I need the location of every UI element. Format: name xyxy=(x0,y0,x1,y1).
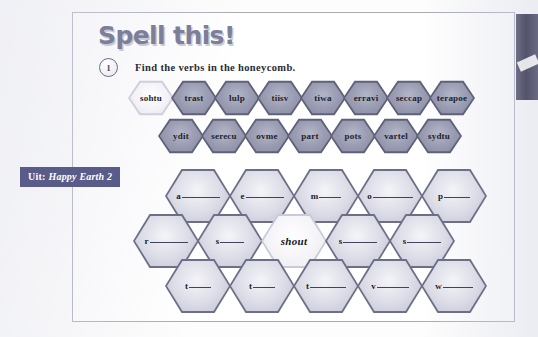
scrambled-word-label: trast xyxy=(185,93,204,103)
answer-initial-letter: s xyxy=(403,236,407,246)
source-label: Uit:Happy Earth 2 xyxy=(20,167,120,187)
answer-content: shout xyxy=(263,235,325,247)
scrambled-word-label: ydit xyxy=(173,131,189,141)
hex-face: v xyxy=(359,260,421,312)
answer-initial-letter: s xyxy=(216,236,220,246)
source-label-title: Happy Earth 2 xyxy=(48,171,112,182)
answer-initial-letter: m xyxy=(311,191,319,201)
answer-blank-line[interactable] xyxy=(444,197,470,198)
answer-blank-line[interactable] xyxy=(407,242,441,243)
scrambled-word-label: seccap xyxy=(396,93,422,103)
scrambled-word-label: ovme xyxy=(256,131,277,141)
answer-initial-letter: e xyxy=(241,191,245,201)
scrambled-word-label: lulp xyxy=(229,93,245,103)
answer-content: a xyxy=(167,191,229,201)
source-label-prefix: Uit: xyxy=(28,171,45,182)
answer-content: p xyxy=(423,191,485,201)
hex-face: trast xyxy=(173,82,215,114)
answer-initial-letter: o xyxy=(367,191,372,201)
scrambled-word-label: sohtu xyxy=(140,93,162,103)
hex-face: sohtu xyxy=(130,82,172,114)
answer-blank-line[interactable] xyxy=(220,242,244,243)
scrambled-word-label: vartel xyxy=(384,131,408,141)
answer-blank-line[interactable] xyxy=(182,197,220,198)
answer-content: s xyxy=(327,236,389,246)
answer-content: v xyxy=(359,281,421,291)
hex-face: terapoe xyxy=(431,82,473,114)
answer-initial-letter: s xyxy=(339,236,343,246)
scrambled-word-label: erravi xyxy=(354,93,379,103)
scrambled-word-label: pots xyxy=(345,131,362,141)
task-number-badge: 1 xyxy=(99,58,118,77)
answer-content: w xyxy=(423,281,485,291)
hex-face: erravi xyxy=(345,82,387,114)
instruction-row: 1 Find the verbs in the honeycomb. xyxy=(99,58,296,77)
hex-face: seccap xyxy=(388,82,430,114)
hex-face: tiisv xyxy=(259,82,301,114)
answer-blank-line[interactable] xyxy=(373,197,413,198)
answer-blank-line[interactable] xyxy=(246,197,284,198)
scrambled-word-label: part xyxy=(301,131,318,141)
hex-face: part xyxy=(289,120,331,152)
answer-content: o xyxy=(359,191,421,201)
answer-blank-line[interactable] xyxy=(319,197,341,198)
answer-blank-line[interactable] xyxy=(377,287,409,288)
answer-blank-line[interactable] xyxy=(253,287,275,288)
hex-face: t xyxy=(295,260,357,312)
scrambled-word-label: tiisv xyxy=(271,93,288,103)
page-title: Spell this! xyxy=(98,21,235,50)
answer-initial-letter: r xyxy=(145,236,149,246)
hex-face: pots xyxy=(332,120,374,152)
answer-blank-line[interactable] xyxy=(310,287,346,288)
scrambled-word-label: sydtu xyxy=(428,131,450,141)
answer-content: s xyxy=(391,236,453,246)
instruction-text: Find the verbs in the honeycomb. xyxy=(135,62,296,73)
answer-content: r xyxy=(135,236,197,246)
hex-face: t xyxy=(231,260,293,312)
hex-face: tiwa xyxy=(302,82,344,114)
answer-initial-letter: p xyxy=(438,191,443,201)
answer-blank-line[interactable] xyxy=(150,242,188,243)
answer-content: t xyxy=(295,281,357,291)
hex-face: sydtu xyxy=(418,120,460,152)
hex-face: ydit xyxy=(160,120,202,152)
scrambled-word-label: terapoe xyxy=(437,93,467,103)
answer-blank-line[interactable] xyxy=(343,242,377,243)
answer-content: t xyxy=(167,281,229,291)
answer-content: e xyxy=(231,191,293,201)
answer-initial-letter: t xyxy=(249,281,252,291)
answer-content: m xyxy=(295,191,357,201)
answer-initial-letter: v xyxy=(371,281,376,291)
answer-blank-line[interactable] xyxy=(443,287,473,288)
answer-content: t xyxy=(231,281,293,291)
hex-face: lulp xyxy=(216,82,258,114)
hex-face: ovme xyxy=(246,120,288,152)
scrambled-word-label: serecu xyxy=(211,131,237,141)
worksheet-page: Spell this! 1 Find the verbs in the hone… xyxy=(0,0,538,337)
hex-face: serecu xyxy=(203,120,245,152)
answer-blank-line[interactable] xyxy=(189,287,211,288)
answer-content: s xyxy=(199,236,261,246)
answer-initial-letter: a xyxy=(176,191,181,201)
answer-word: shout xyxy=(281,235,308,247)
scrambled-word-label: tiwa xyxy=(314,93,331,103)
hex-face: t xyxy=(167,260,229,312)
answer-initial-letter: t xyxy=(306,281,309,291)
hex-face: vartel xyxy=(375,120,417,152)
scan-edge-band xyxy=(516,14,538,100)
answer-initial-letter: t xyxy=(185,281,188,291)
answer-initial-letter: w xyxy=(435,281,442,291)
hex-face: w xyxy=(423,260,485,312)
